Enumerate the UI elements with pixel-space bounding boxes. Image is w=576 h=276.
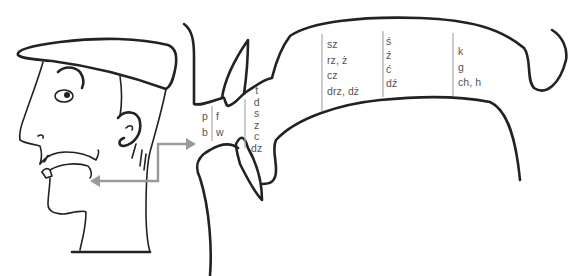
articulation-diagram: p b f w t d s z c dz sz rz, ż cz drz, dż… (0, 0, 576, 276)
label-z-acute: ź (386, 48, 397, 62)
label-b: b (202, 125, 208, 141)
label-w: w (216, 125, 224, 141)
lower-lip-tooth (42, 170, 52, 178)
label-g: g (458, 60, 481, 76)
group-velar: k g ch, h (458, 44, 481, 91)
upper-lip-section (184, 24, 246, 106)
chin-outline (48, 178, 86, 250)
face-front-outline (20, 62, 43, 164)
label-dz-acute: dź (386, 76, 397, 90)
vocal-tract-illustration (184, 18, 566, 276)
label-dz: dz (251, 143, 262, 155)
label-sz: sz (327, 37, 359, 53)
zoom-connector-arrows (90, 138, 196, 187)
hairline (120, 76, 122, 116)
label-k: k (458, 44, 481, 60)
label-c: c (254, 131, 259, 143)
neck-tuft (132, 144, 146, 170)
group-labiodental: f w (216, 109, 224, 140)
tongue (262, 97, 520, 184)
upper-teeth (40, 150, 99, 164)
label-f: f (216, 109, 224, 125)
ear (118, 112, 140, 146)
upper-incisor (222, 40, 248, 98)
lower-teeth (42, 164, 91, 178)
label-rz-zh: rz, ż (327, 53, 359, 69)
palate (246, 18, 566, 92)
label-ch-h: ch, h (458, 75, 481, 91)
label-s: s (254, 108, 259, 120)
back-of-head (146, 89, 166, 252)
lower-lip-section (197, 144, 238, 276)
group-postalveolar: sz rz, ż cz drz, dż (327, 37, 359, 99)
label-t: t (255, 85, 258, 97)
nostril (38, 135, 43, 138)
head-profile-illustration (18, 39, 177, 252)
label-p: p (202, 109, 208, 125)
label-s-acute: ś (386, 34, 397, 48)
group-bilabial: p b (202, 109, 208, 140)
eyebrow (58, 68, 83, 89)
group-dental: t d s z c dz (251, 85, 262, 154)
arrowhead-right (186, 138, 196, 150)
eye (55, 90, 73, 102)
pupil (64, 92, 70, 98)
arrow-path (100, 144, 186, 181)
diagram-drawing (0, 0, 576, 276)
cap-outline (18, 39, 177, 89)
ear-inner (126, 126, 133, 130)
label-drz-dzh: drz, dż (327, 84, 359, 100)
label-c-acute: ć (386, 62, 397, 76)
group-alveolopalatal: ś ź ć dź (386, 34, 397, 90)
label-cz: cz (327, 68, 359, 84)
